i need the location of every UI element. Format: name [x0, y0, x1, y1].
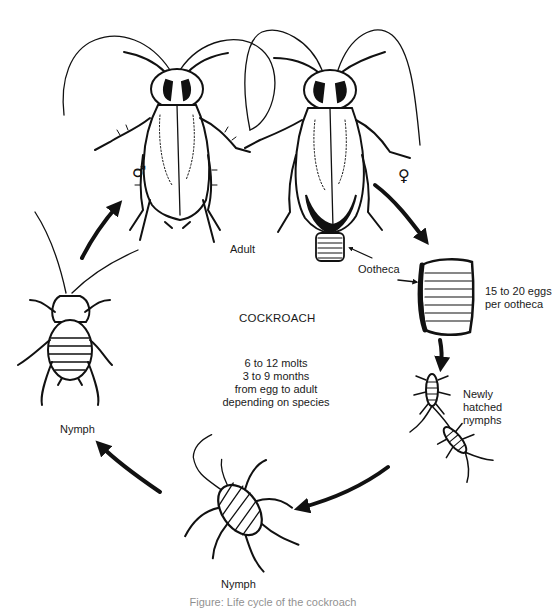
center-note-line-2: 3 to 9 months: [217, 370, 335, 383]
label-nymph-left: Nymph: [60, 423, 95, 436]
label-newly-hatched-nymphs: Newly hatched nymphs: [463, 388, 502, 427]
center-note-line-1: 6 to 12 molts: [217, 357, 335, 370]
male-symbol-icon: ♂: [132, 164, 146, 180]
diagram-title: COCKROACH: [239, 312, 316, 325]
center-note: 6 to 12 molts 3 to 9 months from egg to …: [217, 357, 335, 409]
nymph-left-illustration: [18, 212, 138, 405]
newly-line-3: nymphs: [463, 414, 502, 427]
center-note-line-3: from egg to adult: [217, 383, 335, 396]
eggs-line-2: per ootheca: [485, 298, 552, 311]
ootheca-illustration: [398, 259, 473, 334]
label-ootheca: Ootheca: [358, 263, 400, 276]
figure-caption: Figure: Life cycle of the cockroach: [0, 596, 546, 608]
nymph-bottom-illustration: [146, 417, 318, 597]
female-symbol-icon: ♀: [398, 168, 410, 184]
center-note-line-4: depending on species: [217, 396, 335, 409]
adult-female-cockroach-illustration: [245, 30, 420, 261]
label-eggs-per-ootheca: 15 to 20 eggs per ootheca: [485, 285, 552, 311]
newly-line-1: Newly: [463, 388, 502, 401]
adult-male-cockroach-illustration: [63, 36, 275, 242]
cycle-arrows: [82, 185, 442, 508]
label-nymph-bottom: Nymph: [221, 578, 256, 591]
label-adult: Adult: [230, 243, 255, 256]
newly-line-2: hatched: [463, 401, 502, 414]
eggs-line-1: 15 to 20 eggs: [485, 285, 552, 298]
